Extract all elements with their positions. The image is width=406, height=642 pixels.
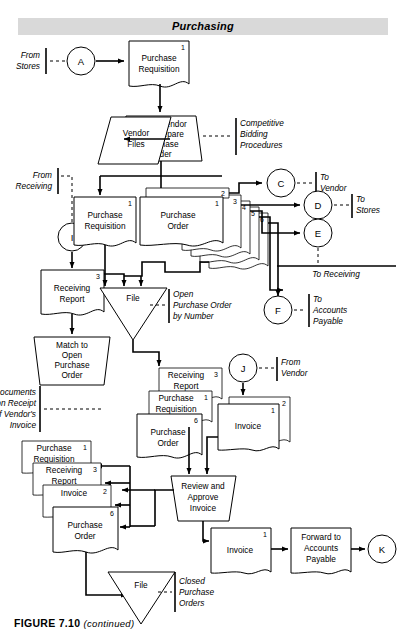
svg-text:2: 2 xyxy=(103,488,107,495)
svg-text:Invoice: Invoice xyxy=(235,421,262,431)
process-match-to-open-po: Match to Open Purchase Order xyxy=(34,337,110,385)
svg-text:1: 1 xyxy=(204,394,208,401)
svg-text:Requisition: Requisition xyxy=(138,64,179,74)
doc-purchase-order-copy-1: 1 Purchase Order xyxy=(140,197,223,246)
figure-caption-number: FIGURE 7.10 xyxy=(14,617,80,629)
svg-text:1: 1 xyxy=(128,200,132,207)
figure-caption: FIGURE 7.10 (continued) xyxy=(14,617,134,629)
svg-text:1: 1 xyxy=(263,531,267,538)
svg-text:Vendor: Vendor xyxy=(123,128,150,138)
svg-text:Receiving: Receiving xyxy=(46,465,83,475)
svg-text:Vendor: Vendor xyxy=(320,183,348,193)
svg-text:3: 3 xyxy=(233,198,237,205)
doc-invoice-final: 1 Invoice xyxy=(211,528,271,574)
svg-text:Pull Documents: Pull Documents xyxy=(0,387,36,397)
connector-e: E xyxy=(304,219,332,247)
svg-text:Procedures: Procedures xyxy=(240,140,282,150)
svg-text:6: 6 xyxy=(194,417,198,424)
svg-text:2: 2 xyxy=(282,400,286,407)
svg-text:Purchase: Purchase xyxy=(67,520,102,530)
connector-f: F xyxy=(264,296,292,324)
svg-text:Accounts: Accounts xyxy=(304,543,338,553)
annotation-to-receiving: To Receiving xyxy=(277,248,396,279)
svg-text:To: To xyxy=(320,172,329,182)
svg-text:1: 1 xyxy=(215,200,219,207)
svg-text:2: 2 xyxy=(221,190,225,197)
svg-text:Stores: Stores xyxy=(16,61,40,71)
svg-text:File: File xyxy=(134,580,148,590)
doc-invoice-copy-1: 1 Invoice xyxy=(218,404,279,451)
svg-text:3: 3 xyxy=(214,371,218,378)
svg-text:Report: Report xyxy=(52,476,78,486)
svg-text:Stores: Stores xyxy=(356,205,380,215)
store-vendor-files: Vendor Files xyxy=(98,117,171,164)
svg-text:Invoice: Invoice xyxy=(61,488,88,498)
svg-text:Receiving: Receiving xyxy=(54,283,91,293)
annotation-from-receiving: From Receiving xyxy=(16,168,72,223)
svg-text:Closed: Closed xyxy=(179,576,205,586)
svg-text:Purchase Order: Purchase Order xyxy=(173,300,233,310)
svg-text:Open: Open xyxy=(173,289,194,299)
svg-text:3: 3 xyxy=(96,273,100,280)
annotation-competitive-bidding: Competitive Bidding Procedures xyxy=(203,118,284,155)
svg-text:3: 3 xyxy=(93,466,97,473)
process-forward-to-accounts-payable: Forward to Accounts Payable xyxy=(291,528,351,574)
svg-text:Forward to: Forward to xyxy=(301,532,341,542)
svg-text:Receiving: Receiving xyxy=(16,181,53,191)
svg-text:Competitive: Competitive xyxy=(240,118,284,128)
svg-text:Invoice: Invoice xyxy=(10,420,37,430)
svg-text:Purchase: Purchase xyxy=(141,53,176,63)
svg-text:D: D xyxy=(315,200,322,211)
svg-text:Invoice: Invoice xyxy=(227,545,254,555)
doc-receiving-report-left: 3 Receiving Report xyxy=(41,270,104,315)
svg-text:1: 1 xyxy=(83,444,87,451)
svg-text:Purchase: Purchase xyxy=(87,210,122,220)
svg-text:Vendor: Vendor xyxy=(281,368,309,378)
svg-text:Receiving: Receiving xyxy=(168,370,205,380)
figure-canvas: Purchasing From Stores A 1 xyxy=(0,0,406,642)
process-review-approve-invoice: Review and Approve Invoice xyxy=(171,476,236,521)
svg-text:Requisition: Requisition xyxy=(155,404,196,414)
svg-text:Accounts: Accounts xyxy=(312,305,347,315)
connector-k: K xyxy=(368,535,396,563)
annotation-from-vendor: From Vendor xyxy=(259,357,309,381)
svg-text:Purchase: Purchase xyxy=(179,587,214,597)
svg-text:Review and: Review and xyxy=(181,481,225,491)
svg-text:I: I xyxy=(71,232,74,243)
annotation-from-stores: From Stores xyxy=(16,48,66,74)
svg-text:Open: Open xyxy=(62,350,83,360)
svg-text:Order: Order xyxy=(74,531,95,541)
svg-text:To: To xyxy=(356,194,365,204)
annotation-to-stores: To Stores xyxy=(334,194,380,218)
connector-j: J xyxy=(229,354,257,382)
annotation-to-accounts-payable: To Accounts Payable xyxy=(294,294,347,327)
svg-text:From: From xyxy=(21,50,40,60)
svg-text:E: E xyxy=(315,228,321,239)
svg-text:upon Receipt: upon Receipt xyxy=(0,398,37,408)
flowchart-svg: From Stores A 1 Purchase Requisition Sel… xyxy=(0,0,406,642)
svg-text:J: J xyxy=(241,363,246,374)
svg-text:Invoice: Invoice xyxy=(190,503,217,513)
svg-text:1: 1 xyxy=(181,44,185,51)
svg-text:1: 1 xyxy=(271,407,275,414)
svg-text:Orders: Orders xyxy=(179,598,204,608)
svg-text:Payable: Payable xyxy=(313,316,343,326)
connector-c: C xyxy=(267,169,295,197)
svg-text:Purchase: Purchase xyxy=(158,393,193,403)
svg-text:Purchase: Purchase xyxy=(54,360,89,370)
svg-text:Report: Report xyxy=(60,294,86,304)
svg-text:Purchase: Purchase xyxy=(36,443,71,453)
svg-text:Requisition: Requisition xyxy=(84,221,125,231)
svg-text:Bidding: Bidding xyxy=(240,129,268,139)
figure-caption-note: (continued) xyxy=(84,618,135,629)
svg-text:To: To xyxy=(313,294,322,304)
doc-pulled-purchase-order: 6 Purchase Order xyxy=(137,414,202,458)
svg-text:From: From xyxy=(33,170,52,180)
svg-text:Order: Order xyxy=(167,221,188,231)
svg-text:Purchase: Purchase xyxy=(150,427,185,437)
connector-a: A xyxy=(67,47,95,75)
annotation-pull-documents: Pull Documents upon Receipt of Vendor's … xyxy=(0,386,104,432)
svg-text:From: From xyxy=(281,357,300,367)
svg-text:Approve: Approve xyxy=(188,492,219,502)
svg-text:F: F xyxy=(275,305,281,316)
